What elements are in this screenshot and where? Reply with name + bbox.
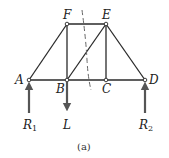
- force-label-L: L: [62, 118, 71, 132]
- joint-B: [65, 78, 69, 82]
- joint-D: [143, 78, 147, 82]
- section-cut-line: [82, 10, 91, 90]
- node-label-A: A: [14, 73, 24, 87]
- joint-E: [104, 22, 108, 26]
- node-label-B: B: [55, 82, 65, 96]
- node-label-C: C: [102, 82, 111, 96]
- joint-A: [27, 78, 31, 82]
- force-label-R2: R2: [138, 118, 153, 133]
- truss-diagram: F E A B C D R1 L R2 (a): [0, 0, 169, 158]
- member-AF: [29, 24, 67, 80]
- node-label-E: E: [101, 8, 111, 22]
- force-label-R1: R1: [22, 118, 37, 133]
- force-arrows: [29, 82, 145, 113]
- node-label-F: F: [62, 8, 72, 22]
- joint-F: [65, 22, 69, 26]
- member-ED: [106, 24, 145, 80]
- figure-caption: (a): [77, 141, 91, 152]
- node-label-D: D: [148, 73, 159, 87]
